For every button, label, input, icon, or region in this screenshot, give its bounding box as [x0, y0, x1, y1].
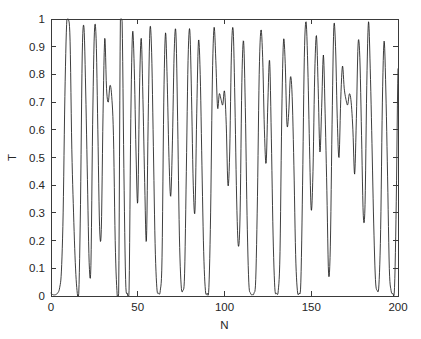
y-tick-label: 0.2: [29, 235, 45, 247]
x-tick-label: 200: [388, 301, 407, 313]
y-tick-label: 0: [39, 290, 45, 302]
y-axis-title: T: [6, 154, 18, 161]
y-tick-label: 0.1: [29, 262, 45, 274]
y-tick-label: 0.7: [29, 96, 45, 108]
y-tick-label: 0.5: [29, 152, 45, 164]
x-tick-label: 0: [48, 301, 54, 313]
x-tick-label: 150: [302, 301, 321, 313]
y-tick-label: 1: [39, 13, 45, 25]
x-tick-label: 50: [131, 301, 144, 313]
y-tick-label: 0.6: [29, 124, 45, 136]
y-tick-label: 0.4: [29, 179, 46, 191]
y-tick-label: 0.8: [29, 68, 45, 80]
y-tick-label: 0.3: [29, 207, 45, 219]
x-axis-title: N: [220, 319, 228, 331]
chart-plot: 050100150200 00.10.20.30.40.50.60.70.80.…: [0, 0, 421, 339]
plot-area-background: [51, 19, 398, 296]
x-tick-label: 100: [215, 301, 234, 313]
y-tick-label: 0.9: [29, 41, 45, 53]
figure-container: 050100150200 00.10.20.30.40.50.60.70.80.…: [0, 0, 421, 339]
